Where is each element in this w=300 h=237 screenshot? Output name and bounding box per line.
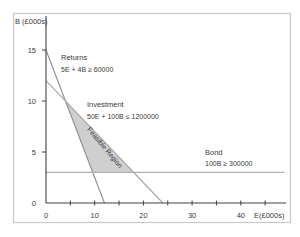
- x-axis-label: E(£000s): [254, 211, 285, 220]
- x-tick-label: 30: [188, 211, 196, 220]
- y-tick-label: 15: [28, 46, 36, 55]
- x-tick-label: 0: [44, 211, 48, 220]
- x-tick-label: 10: [91, 211, 99, 220]
- y-axis-label: B (£000s): [15, 17, 48, 26]
- x-tick-label: 20: [139, 211, 147, 220]
- y-tick-label: 5: [32, 148, 36, 157]
- linear-programming-chart: 010203040 051015 B (£000s) E(£000s) Retu…: [0, 0, 300, 237]
- investment-equation: 50E + 100B ≤ 1200000: [87, 113, 159, 120]
- bond-label: Bond: [205, 148, 223, 157]
- y-tick-label: 0: [32, 199, 36, 208]
- investment-label: Investment: [87, 100, 125, 109]
- returns-equation: 5E + 4B ≥ 60000: [61, 66, 113, 73]
- x-tick-label: 40: [237, 211, 245, 220]
- y-tick-label: 10: [28, 97, 36, 106]
- returns-label: Returns: [61, 53, 88, 62]
- bond-equation: 100B ≥ 300000: [205, 160, 253, 167]
